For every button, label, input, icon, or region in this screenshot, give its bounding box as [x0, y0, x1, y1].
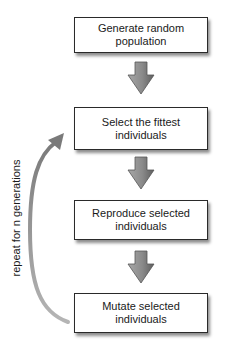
step-generate-population: Generate random population: [74, 17, 208, 53]
down-arrow-icon: [127, 156, 155, 190]
loop-label: repeat for n generations: [10, 160, 22, 277]
step-label: Mutate selected individuals: [75, 300, 207, 326]
step-label: Generate random population: [75, 22, 207, 48]
down-arrow-icon: [127, 61, 155, 95]
step-select-fittest: Select the fittest individuals: [74, 107, 208, 150]
down-arrow-icon: [127, 250, 155, 284]
step-mutate: Mutate selected individuals: [74, 293, 208, 333]
step-label: Reproduce selected individuals: [75, 207, 207, 233]
genetic-algorithm-flowchart: repeat for n generations Generate random…: [0, 0, 225, 354]
step-label: Select the fittest individuals: [75, 116, 207, 142]
step-reproduce: Reproduce selected individuals: [74, 200, 208, 240]
